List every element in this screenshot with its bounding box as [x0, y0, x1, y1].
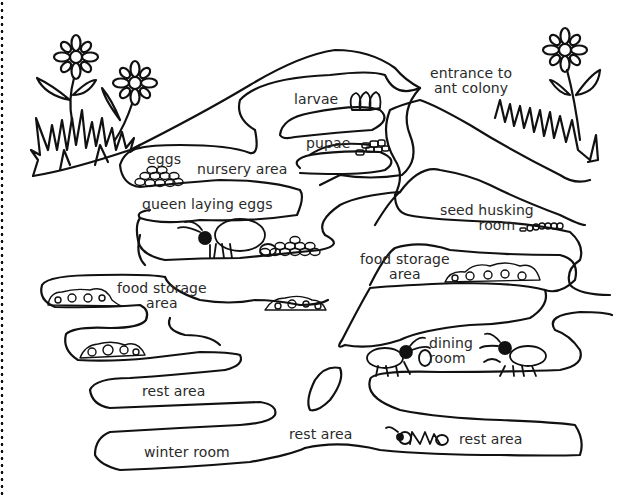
- label-nursery-area: nursery area: [197, 162, 287, 177]
- label-rest-area-right: rest area: [459, 432, 522, 447]
- label-seed-husking-room: seed husking room: [440, 203, 534, 233]
- label-larvae: larvae: [294, 92, 338, 107]
- food-pile-right-icon: [445, 263, 540, 282]
- label-food-storage-left: food storage area: [117, 281, 207, 311]
- label-rest-area-middle: rest area: [289, 427, 352, 442]
- label-dining-line1: dining: [429, 336, 473, 351]
- larvae-inner: [280, 107, 385, 138]
- food-pile-center-icon: [265, 296, 326, 310]
- tunnel-drawing: [0, 0, 631, 497]
- label-food-storage-left-line2: area: [117, 296, 207, 311]
- food-pile-left-upper-icon: [48, 289, 122, 306]
- label-seed-husking-line2: room: [440, 218, 534, 233]
- grass-right-icon: [495, 100, 598, 162]
- dining-ant-left-icon: [367, 338, 431, 376]
- label-pupae: pupae: [306, 136, 350, 151]
- label-queen-laying-eggs: queen laying eggs: [142, 197, 273, 212]
- label-food-storage-left-line1: food storage: [117, 281, 207, 296]
- eggs-pile-queen-icon: [260, 237, 320, 256]
- label-food-storage-right-line2: area: [360, 267, 450, 282]
- rest-pocket: [308, 368, 341, 411]
- resting-ant-icon: [386, 427, 448, 445]
- label-entrance: entrance to ant colony: [430, 66, 512, 96]
- label-food-storage-right: food storage area: [360, 252, 450, 282]
- label-entrance-line2: ant colony: [430, 81, 512, 96]
- grass-left-icon: [31, 110, 140, 176]
- ant-colony-diagram: entrance to ant colony larvae pupae eggs…: [0, 0, 631, 497]
- label-food-storage-right-line1: food storage: [360, 252, 450, 267]
- label-entrance-line1: entrance to: [430, 66, 512, 81]
- dining-ant-right-icon: [480, 334, 546, 376]
- label-seed-husking-line1: seed husking: [440, 203, 534, 218]
- label-eggs: eggs: [147, 152, 181, 167]
- queen-ant-icon: [178, 219, 276, 258]
- label-winter-room: winter room: [144, 445, 230, 460]
- label-dining-room: dining room: [429, 336, 473, 366]
- label-rest-area-upper: rest area: [142, 384, 205, 399]
- flowers-left-icon: [37, 35, 157, 140]
- food-pile-left-lower-icon: [80, 342, 145, 358]
- label-dining-line2: room: [429, 351, 473, 366]
